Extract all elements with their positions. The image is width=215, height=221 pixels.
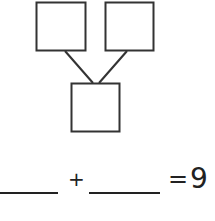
result-value: 9 [190,162,208,195]
answer-blank-1[interactable] [0,192,58,194]
part-box-right[interactable] [106,3,154,51]
whole-box[interactable] [72,84,120,132]
number-bond-diagram [0,0,215,140]
answer-blank-2[interactable] [89,192,160,194]
part-box-left[interactable] [37,3,86,51]
equals-sign: = [168,165,188,193]
connector-left [65,51,93,83]
plus-sign: + [68,167,85,191]
connector-right [99,51,127,83]
equation: + = 9 [0,163,215,199]
